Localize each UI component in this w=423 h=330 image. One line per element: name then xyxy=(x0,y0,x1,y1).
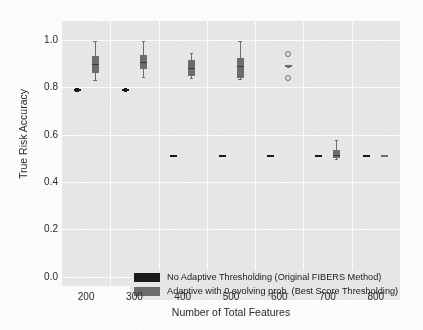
whisker-cap-low xyxy=(142,77,146,78)
x-tick-label: 300 xyxy=(114,292,154,302)
outlier-marker xyxy=(285,51,291,57)
outlier-marker xyxy=(285,75,291,81)
gridline-vertical xyxy=(159,21,160,286)
median-line xyxy=(140,62,147,63)
median-line xyxy=(333,155,340,156)
whisker-cap-low xyxy=(124,91,128,92)
box-iqr xyxy=(381,155,388,157)
box-iqr xyxy=(237,58,244,78)
plot-area: No Adaptive Thresholding (Original FIBER… xyxy=(62,21,400,286)
whisker-cap-low xyxy=(75,91,79,92)
median-line xyxy=(188,68,195,69)
gridline-horizontal xyxy=(62,229,400,230)
x-axis-tick-labels: 200300400500600700800 xyxy=(62,292,400,306)
box-iqr xyxy=(122,89,129,91)
whisker-cap-high xyxy=(335,140,339,141)
box-iqr xyxy=(74,89,81,91)
legend-item-no-adaptive: No Adaptive Thresholding (Original FIBER… xyxy=(130,271,400,284)
gridline-vertical xyxy=(110,21,111,286)
y-tick-label: 0.8 xyxy=(30,82,58,92)
x-tick-label: 700 xyxy=(308,292,348,302)
whisker-cap-high xyxy=(142,41,146,42)
x-tick-label: 500 xyxy=(211,292,251,302)
whisker-cap-low xyxy=(238,79,242,80)
median-line xyxy=(92,64,99,65)
box-iqr xyxy=(219,155,226,157)
legend-label-no-adaptive: No Adaptive Thresholding (Original FIBER… xyxy=(167,273,381,282)
box-iqr xyxy=(170,155,177,157)
gridline-vertical xyxy=(255,21,256,286)
x-axis-title: Number of Total Features xyxy=(62,306,400,318)
y-tick-label: 0.2 xyxy=(30,224,58,234)
whisker-cap-high xyxy=(190,53,194,54)
whisker-cap-low xyxy=(190,78,194,79)
gridline-horizontal xyxy=(62,40,400,41)
y-tick-label: 0.6 xyxy=(30,130,58,140)
y-tick-label: 1.0 xyxy=(30,35,58,45)
gridline-horizontal xyxy=(62,87,400,88)
gridline-vertical xyxy=(207,21,208,286)
gridline-vertical xyxy=(303,21,304,286)
x-tick-label: 400 xyxy=(163,292,203,302)
gridline-horizontal xyxy=(62,182,400,183)
box-iqr xyxy=(315,155,322,157)
gridline-vertical xyxy=(352,21,353,286)
box-iqr xyxy=(267,155,274,157)
chart-figure: 1.00.80.60.40.20.0 True Risk Accuracy No… xyxy=(0,0,423,330)
whisker-cap-high xyxy=(93,41,97,42)
whisker-cap-high xyxy=(238,41,242,42)
median-line xyxy=(237,66,244,67)
x-tick-label: 600 xyxy=(259,292,299,302)
y-axis-title: True Risk Accuracy xyxy=(17,59,29,209)
whisker-cap-low xyxy=(287,67,291,68)
y-tick-label: 0.4 xyxy=(30,177,58,187)
y-tick-label: 0.0 xyxy=(30,272,58,282)
legend-swatch-no-adaptive xyxy=(134,273,160,282)
gridline-horizontal xyxy=(62,135,400,136)
box-iqr xyxy=(285,65,292,67)
whisker-cap-low xyxy=(93,80,97,81)
y-axis-tick-labels: 1.00.80.60.40.20.0 xyxy=(26,21,58,286)
box-iqr xyxy=(363,155,370,157)
whisker-cap-low xyxy=(335,159,339,160)
x-tick-label: 200 xyxy=(66,292,106,302)
x-tick-label: 800 xyxy=(356,292,396,302)
